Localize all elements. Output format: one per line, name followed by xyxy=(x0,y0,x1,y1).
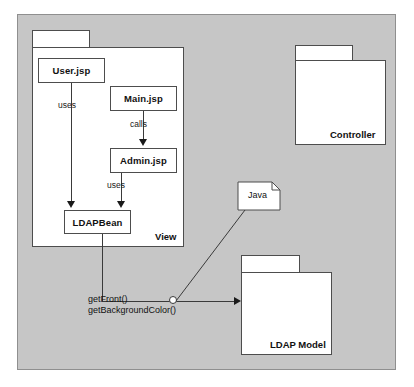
package-tab-view xyxy=(32,30,90,48)
note-label-java: Java xyxy=(248,190,267,200)
class-box-ldapbean[interactable]: LDAPBean xyxy=(64,210,131,234)
edge-arrow-ldapbean-to-model xyxy=(234,297,241,305)
package-tab-controller xyxy=(295,45,353,61)
interface-socket-icon xyxy=(169,296,177,304)
class-label-user-jsp: User.jsp xyxy=(53,65,91,76)
diagram-canvas: View User.jsp Main.jsp Admin.jsp LDAPBea… xyxy=(0,0,414,387)
class-box-main-jsp[interactable]: Main.jsp xyxy=(110,86,177,111)
class-box-admin-jsp[interactable]: Admin.jsp xyxy=(110,148,177,173)
package-label-view: View xyxy=(155,231,176,242)
edge-line-ldapbean-down xyxy=(102,234,103,301)
class-label-ldapbean: LDAPBean xyxy=(73,217,123,228)
edge-arrow-admin-to-ldapbean xyxy=(117,201,125,208)
edge-label-uses-user: uses xyxy=(58,100,76,110)
edge-label-uses-admin: uses xyxy=(107,180,125,190)
edge-arrow-user-to-ldapbean xyxy=(67,201,75,208)
operation-label-get-background-color: getBackgroundColor() xyxy=(88,305,176,316)
class-box-user-jsp[interactable]: User.jsp xyxy=(38,58,105,83)
package-label-controller: Controller xyxy=(330,129,375,140)
class-label-admin-jsp: Admin.jsp xyxy=(120,155,167,166)
package-label-ldap-model: LDAP Model xyxy=(270,339,326,350)
package-tab-ldap-model xyxy=(241,255,300,273)
edge-arrow-main-to-admin xyxy=(139,139,147,146)
operation-label-get-front: getFront() xyxy=(88,294,128,305)
class-label-main-jsp: Main.jsp xyxy=(124,93,163,104)
edge-label-calls: calls xyxy=(130,119,147,129)
